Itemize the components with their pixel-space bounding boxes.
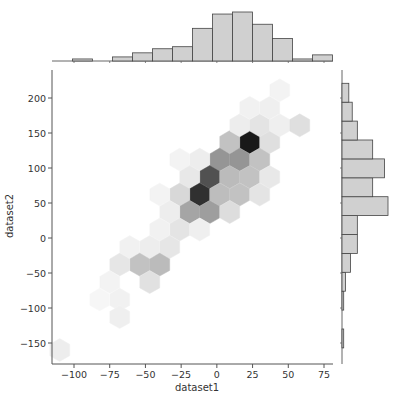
x-tick-label: −75 [100, 369, 120, 380]
y-tick-label: −50 [26, 268, 46, 279]
histogram-bar [342, 253, 351, 272]
histogram-bar [342, 140, 373, 159]
y-tick-label: 0 [40, 233, 46, 244]
jointplot-chart: −100−75−50−250255075−150−100−50050100150… [0, 0, 398, 398]
histogram-bar [342, 235, 357, 254]
x-tick-label: 0 [214, 369, 220, 380]
histogram-bar [342, 197, 388, 216]
histogram-bar [253, 24, 273, 61]
x-tick-label: 25 [247, 369, 259, 380]
histogram-bar [342, 121, 357, 140]
y-tick-label: 150 [28, 128, 46, 139]
y-tick-label: 100 [28, 163, 46, 174]
hexbin-cell [290, 114, 310, 137]
histogram-bar [342, 83, 349, 102]
y-axis-label: dataset2 [4, 194, 15, 238]
y-tick-label: 200 [28, 93, 46, 104]
histogram-bar [313, 55, 333, 61]
histogram-bar [342, 291, 344, 310]
hexbin-layer [50, 79, 310, 362]
marginal-histogram-x [52, 12, 333, 63]
histogram-bar [153, 49, 173, 61]
hexbin-cell [50, 339, 70, 362]
histogram-bar [173, 47, 193, 61]
histogram-bar [342, 329, 344, 348]
histogram-bar [133, 53, 153, 61]
y-tick-label: −150 [20, 338, 46, 349]
x-tick-label: 50 [282, 369, 294, 380]
histogram-bar [273, 39, 293, 61]
histogram-bar [233, 12, 253, 61]
x-tick-label: −50 [135, 369, 155, 380]
histogram-bar [342, 178, 373, 197]
histogram-bar [293, 59, 313, 61]
x-tick-label: 75 [318, 369, 330, 380]
marginal-histogram-y [340, 70, 388, 364]
histogram-bar [342, 159, 385, 178]
x-tick-label: −100 [61, 369, 87, 380]
hexbin-cell [110, 306, 130, 329]
x-axis-label: dataset1 [175, 382, 219, 393]
histogram-bar [342, 272, 345, 291]
y-tick-label: −100 [20, 303, 46, 314]
histogram-bar [213, 14, 233, 61]
histogram-bar [73, 59, 93, 61]
x-tick-label: −25 [171, 369, 191, 380]
y-tick-label: 50 [34, 198, 46, 209]
histogram-bar [342, 102, 352, 121]
histogram-bar [342, 216, 357, 235]
histogram-bar [193, 28, 213, 61]
histogram-bar [113, 57, 133, 61]
